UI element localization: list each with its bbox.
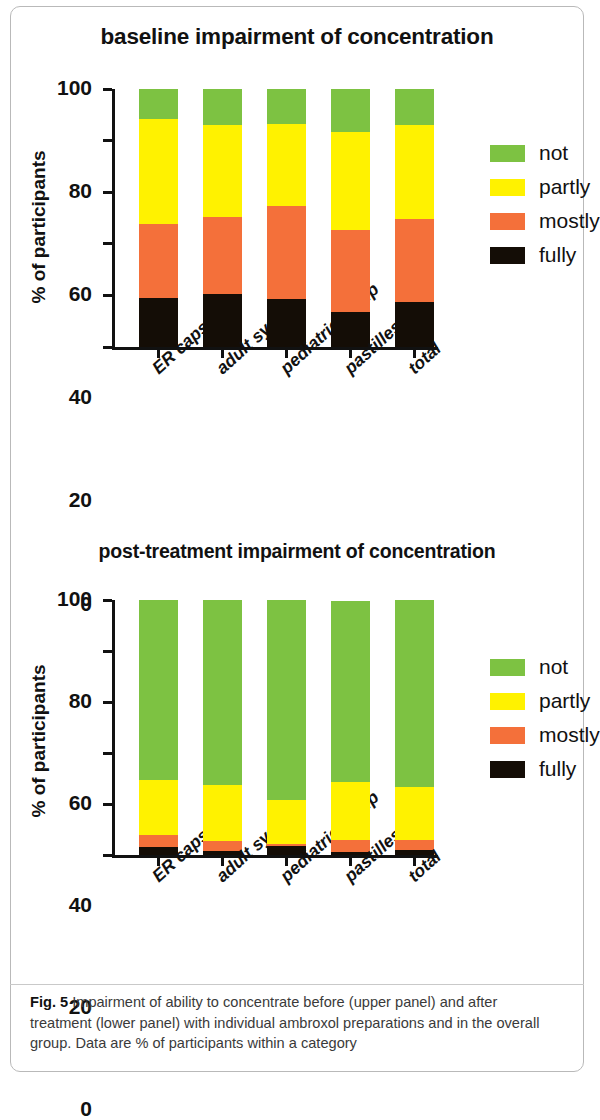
y-axis-label-upper: % of participants (28, 142, 50, 312)
bar-segment-not (203, 89, 242, 125)
y-tick-20-baseline: 20 (103, 294, 112, 297)
legend-swatch-mostly-icon (490, 213, 525, 230)
bar-segment-not (395, 600, 434, 787)
y-tick-label-100-baseline: 100 (57, 76, 92, 100)
legend-post-treatment: notpartlymostlyfully (490, 650, 600, 786)
y-tick-40-baseline: 40 (103, 242, 112, 245)
bar-segment-partly (139, 119, 178, 225)
bar-segment-mostly (139, 835, 178, 848)
y-tick-0-post: 0 (103, 854, 112, 857)
y-tick-label-80-baseline: 80 (69, 179, 92, 203)
legend-swatch-not-icon (490, 145, 525, 162)
bar-post-er-capsules (139, 600, 178, 855)
y-tick-0-baseline: 0 (103, 346, 112, 349)
legend-baseline: notpartlymostlyfully (490, 136, 600, 272)
legend-label-fully: fully (539, 243, 576, 267)
plot-area-baseline: 020406080100ER capsulesadult syruppediat… (112, 89, 432, 347)
bar-segment-partly (139, 780, 178, 835)
chart-panel-post-treatment: post-treatment impairment of concentrati… (10, 540, 584, 980)
legend-label-mostly: mostly (539, 723, 600, 747)
y-axis-line-upper (112, 89, 115, 347)
bar-post-adult-syrup (203, 600, 242, 855)
y-tick-80-post: 80 (103, 650, 112, 653)
legend-swatch-partly-icon (490, 693, 525, 710)
bar-segment-not (331, 89, 370, 132)
chart-title-post-treatment: post-treatment impairment of concentrati… (10, 540, 584, 563)
y-tick-label-20-baseline: 20 (69, 488, 92, 512)
y-tick-20-post: 20 (103, 803, 112, 806)
bar-segment-partly (267, 800, 306, 843)
y-tick-label-60-baseline: 60 (69, 282, 92, 306)
legend-label-not: not (539, 655, 568, 679)
bar-segment-not (395, 89, 434, 125)
legend-swatch-not-icon (490, 659, 525, 676)
y-tick-40-post: 40 (103, 752, 112, 755)
plot-area-post-treatment: 020406080100ER capsulesadult syruppediat… (112, 600, 432, 855)
legend-label-fully: fully (539, 757, 576, 781)
bar-segment-not (203, 600, 242, 785)
bar-baseline-er-capsules (139, 89, 178, 347)
legend-swatch-fully-icon (490, 247, 525, 264)
y-tick-80-baseline: 80 (103, 139, 112, 142)
bar-segment-mostly (395, 219, 434, 302)
bar-segment-partly (203, 785, 242, 841)
bar-baseline-pastilles (331, 89, 370, 347)
y-tick-label-40-post: 40 (69, 893, 92, 917)
bar-segment-partly (331, 782, 370, 839)
y-tick-100-post: 100 (103, 599, 112, 602)
y-tick-label-40-baseline: 40 (69, 385, 92, 409)
y-tick-label-0-post: 0 (80, 1097, 92, 1120)
y-tick-label-60-post: 60 (69, 791, 92, 815)
legend-swatch-mostly-icon (490, 727, 525, 744)
legend-swatch-fully-icon (490, 761, 525, 778)
legend-label-partly: partly (539, 175, 590, 199)
bar-segment-partly (395, 787, 434, 839)
bar-baseline-adult-syrup (203, 89, 242, 347)
bar-baseline-pediatric-syrup (267, 89, 306, 347)
bar-segment-mostly (267, 206, 306, 299)
bar-segment-mostly (139, 224, 178, 298)
bar-post-pediatric-syrup (267, 600, 306, 855)
bar-segment-not (267, 89, 306, 124)
legend-label-mostly: mostly (539, 209, 600, 233)
bar-segment-not (331, 601, 370, 782)
legend-item-mostly: mostly (490, 718, 600, 752)
y-tick-label-100-post: 100 (57, 587, 92, 611)
legend-item-not: not (490, 136, 600, 170)
bar-segment-mostly (331, 230, 370, 313)
y-tick-100-baseline: 100 (103, 88, 112, 91)
figure-caption: Fig. 5 Impairment of ability to concentr… (30, 992, 558, 1054)
caption-divider (10, 984, 584, 985)
bar-segment-not (139, 89, 178, 119)
bar-post-total (395, 600, 434, 855)
chart-title-baseline: baseline impairment of concentration (10, 24, 584, 50)
bar-segment-partly (203, 125, 242, 217)
bar-segment-partly (331, 132, 370, 230)
figure-caption-text: Impairment of ability to concentrate bef… (30, 994, 539, 1051)
bar-segment-not (139, 600, 178, 780)
bar-post-pastilles (331, 600, 370, 855)
figure-label: Fig. 5 (30, 994, 68, 1010)
legend-item-partly: partly (490, 684, 600, 718)
legend-item-partly: partly (490, 170, 600, 204)
y-axis-label-lower: % of participants (28, 656, 50, 826)
bar-segment-mostly (203, 217, 242, 294)
legend-item-fully: fully (490, 238, 600, 272)
bar-segment-not (267, 600, 306, 800)
bar-segment-partly (395, 125, 434, 219)
legend-item-mostly: mostly (490, 204, 600, 238)
bar-segment-fully (203, 294, 242, 347)
legend-item-not: not (490, 650, 600, 684)
legend-item-fully: fully (490, 752, 600, 786)
legend-label-partly: partly (539, 689, 590, 713)
y-tick-60-baseline: 60 (103, 191, 112, 194)
bar-segment-fully (139, 298, 178, 347)
legend-label-not: not (539, 141, 568, 165)
bar-segment-partly (267, 124, 306, 207)
y-tick-label-80-post: 80 (69, 689, 92, 713)
legend-swatch-partly-icon (490, 179, 525, 196)
y-tick-60-post: 60 (103, 701, 112, 704)
chart-panel-baseline: baseline impairment of concentration % o… (10, 6, 584, 486)
y-axis-line-lower (112, 600, 115, 855)
bar-baseline-total (395, 89, 434, 347)
